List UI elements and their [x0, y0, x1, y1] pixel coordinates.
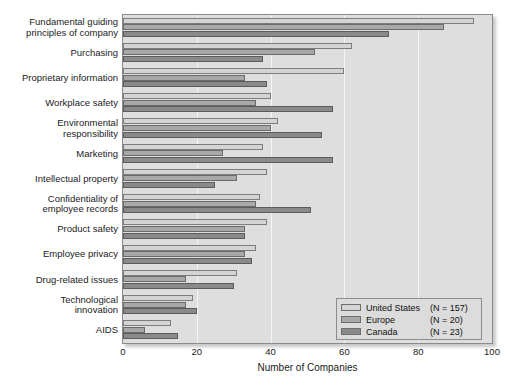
x-tick-80: 80	[413, 346, 424, 357]
x-tick-100: 100	[484, 346, 500, 357]
bar-canada	[123, 283, 234, 289]
bar-united-states	[123, 320, 171, 326]
bar-canada	[123, 258, 252, 264]
legend: United States (N = 157) Europe (N = 20) …	[336, 298, 482, 340]
top-caption	[2, 0, 202, 10]
bar-united-states	[123, 245, 256, 251]
bar-group	[123, 242, 492, 267]
bar-group	[123, 15, 492, 40]
bar-group	[123, 91, 492, 116]
bar-europe	[123, 175, 237, 181]
y-axis-label: Purchasing	[0, 48, 118, 59]
bar-group	[123, 40, 492, 65]
legend-item-canada: Canada (N = 23)	[341, 326, 477, 337]
legend-item-europe: Europe (N = 20)	[341, 314, 477, 325]
bar-canada	[123, 132, 322, 138]
bar-united-states	[123, 144, 263, 150]
legend-n-united-states: (N = 157)	[430, 303, 468, 313]
bar-united-states	[123, 118, 278, 124]
bar-europe	[123, 150, 223, 156]
bar-group	[123, 217, 492, 242]
bar-united-states	[123, 68, 344, 74]
bar-europe	[123, 24, 444, 30]
y-axis-label: Product safety	[0, 224, 118, 235]
bar-europe	[123, 49, 315, 55]
bar-europe	[123, 125, 271, 131]
bar-europe	[123, 276, 186, 282]
legend-swatch-europe	[341, 316, 361, 323]
x-tick-0: 0	[120, 346, 125, 357]
y-axis-label: Drug-related issues	[0, 275, 118, 286]
x-axis-ticks: 020406080100	[0, 346, 505, 360]
bar-canada	[123, 56, 263, 62]
bar-rows	[123, 15, 492, 343]
legend-n-canada: (N = 23)	[430, 327, 463, 337]
x-tick-20: 20	[192, 346, 203, 357]
legend-swatch-canada	[341, 328, 361, 335]
legend-label-canada: Canada	[366, 327, 430, 337]
bar-canada	[123, 333, 178, 339]
y-axis-labels: Fundamental guidingprinciples of company…	[0, 14, 118, 344]
legend-swatch-united-states	[341, 304, 361, 311]
x-tick-60: 60	[339, 346, 350, 357]
y-axis-label: Environmentalresponsibility	[0, 118, 118, 139]
bar-united-states	[123, 18, 474, 24]
legend-n-europe: (N = 20)	[430, 315, 463, 325]
bar-group	[123, 116, 492, 141]
bar-group	[123, 267, 492, 292]
bar-group	[123, 141, 492, 166]
bar-group	[123, 166, 492, 191]
bar-europe	[123, 100, 256, 106]
y-axis-label: AIDS	[0, 325, 118, 336]
y-axis-label: Fundamental guidingprinciples of company	[0, 17, 118, 38]
y-axis-label: Employee privacy	[0, 249, 118, 260]
bar-united-states	[123, 270, 237, 276]
bar-canada	[123, 157, 333, 163]
y-axis-label: Proprietary information	[0, 73, 118, 84]
bar-canada	[123, 207, 311, 213]
bar-canada	[123, 81, 267, 87]
plot-area	[122, 14, 493, 344]
bar-canada	[123, 233, 245, 239]
legend-label-united-states: United States	[366, 303, 430, 313]
bar-united-states	[123, 169, 267, 175]
legend-label-europe: Europe	[366, 315, 430, 325]
bar-group	[123, 192, 492, 217]
bar-united-states	[123, 43, 352, 49]
y-axis-label: Workplace safety	[0, 98, 118, 109]
bar-europe	[123, 327, 145, 333]
bar-canada	[123, 182, 215, 188]
bar-united-states	[123, 219, 267, 225]
bar-group	[123, 65, 492, 90]
y-axis-label: Marketing	[0, 149, 118, 160]
legend-item-united-states: United States (N = 157)	[341, 302, 477, 313]
bar-europe	[123, 201, 256, 207]
bar-canada	[123, 31, 389, 37]
bar-united-states	[123, 295, 193, 301]
bar-europe	[123, 226, 245, 232]
y-axis-label: Technologicalinnovation	[0, 295, 118, 316]
y-axis-label: Confidentiality ofemployee records	[0, 194, 118, 215]
bar-canada	[123, 106, 333, 112]
x-tick-40: 40	[265, 346, 276, 357]
y-axis-label: Intellectual property	[0, 174, 118, 185]
bar-canada	[123, 308, 197, 314]
bar-united-states	[123, 194, 260, 200]
bar-europe	[123, 75, 245, 81]
bar-europe	[123, 302, 186, 308]
chart-figure: Fundamental guidingprinciples of company…	[0, 0, 505, 390]
bar-united-states	[123, 93, 271, 99]
bar-europe	[123, 251, 245, 257]
x-axis-title: Number of Companies	[122, 362, 493, 373]
